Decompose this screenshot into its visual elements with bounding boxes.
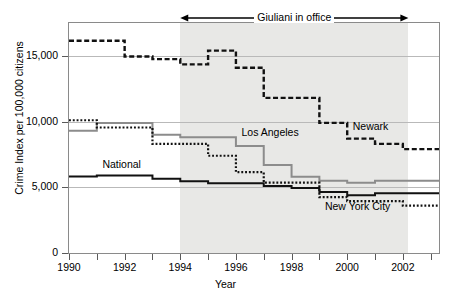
x-tick-label-2002: 2002 (383, 262, 423, 273)
giuliani-annotation-label: Giuliani in office (254, 12, 334, 23)
x-tick-mark-1990 (69, 254, 70, 260)
x-tick-mark-1998 (292, 254, 293, 260)
series-label-new-york-city: New York City (325, 201, 390, 212)
x-tick-mark-2000 (347, 254, 348, 260)
x-tick-mark-1999 (319, 254, 320, 260)
x-tick-label-1990: 1990 (49, 262, 89, 273)
plot-area: Newark Los Angeles National New York Cit… (68, 22, 440, 254)
annotation-arrowhead-left (180, 14, 188, 21)
x-tick-mark-1992 (125, 254, 126, 260)
x-tick-mark-1995 (208, 254, 209, 260)
x-axis-title: Year (0, 278, 451, 290)
x-tick-mark-1993 (152, 254, 153, 260)
x-tick-label-1996: 1996 (216, 262, 256, 273)
x-tick-label-1994: 1994 (160, 262, 200, 273)
x-tick-label-1992: 1992 (105, 262, 145, 273)
x-tick-mark-1997 (264, 254, 265, 260)
series-label-national: National (102, 159, 141, 170)
y-tick-label-5000: 5,000 (0, 181, 58, 191)
series-label-los-angeles: Los Angeles (241, 127, 298, 138)
x-tick-label-2000: 2000 (327, 262, 367, 273)
x-tick-mark-2001 (375, 254, 376, 260)
series-path-national (69, 175, 439, 195)
annotation-arrowhead-right (400, 14, 408, 21)
y-tick-label-15000: 15,000 (0, 50, 58, 60)
x-tick-label-1998: 1998 (272, 262, 312, 273)
series-label-newark: Newark (353, 121, 389, 132)
x-tick-mark-2003 (431, 254, 432, 260)
x-tick-mark-2002 (403, 254, 404, 260)
giuliani-annotation-arrow (0, 0, 451, 30)
y-tick-label-0: 0 (0, 247, 58, 257)
x-tick-mark-1996 (236, 254, 237, 260)
chart-root: Crime Index per 100,000 citizens 15,000 … (0, 0, 451, 298)
y-tick-label-10000: 10,000 (0, 116, 58, 126)
x-tick-mark-1991 (97, 254, 98, 260)
x-tick-mark-1994 (180, 254, 181, 260)
